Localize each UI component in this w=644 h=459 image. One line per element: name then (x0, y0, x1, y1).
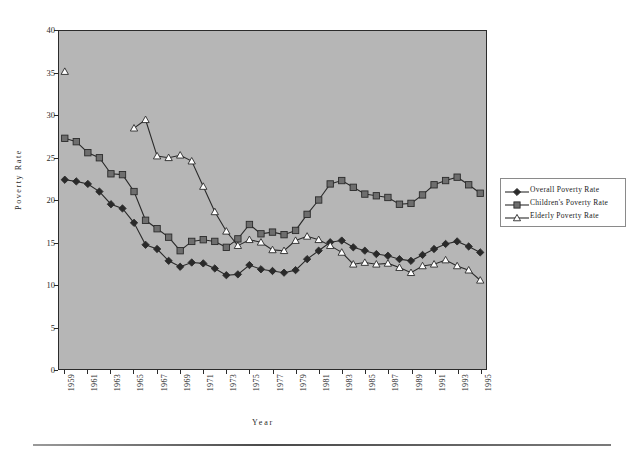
x-tick-mark (157, 370, 158, 374)
legend-label: Children's Poverty Rate (530, 198, 608, 207)
y-axis-title: Poverty Rate (14, 149, 23, 210)
data-point-marker (85, 149, 91, 155)
data-point-marker (407, 257, 414, 264)
x-tick-label: 1967 (160, 374, 169, 391)
data-point-marker (96, 155, 102, 161)
y-tick-label: 10 (33, 280, 55, 290)
x-tick-label: 1989 (415, 374, 424, 391)
x-tick-label: 1981 (322, 374, 331, 391)
data-point-marker (154, 226, 160, 232)
data-point-marker (142, 217, 148, 223)
data-point-marker (280, 269, 287, 276)
data-point-marker (327, 181, 333, 187)
x-tick-label: 1959 (67, 374, 76, 391)
data-point-marker (373, 250, 380, 257)
x-tick-label: 1969 (183, 374, 192, 391)
data-point-marker (339, 177, 345, 183)
data-point-marker (258, 231, 264, 237)
data-point-marker (419, 251, 426, 258)
data-point-marker (189, 238, 195, 244)
legend-item-1[interactable]: Overall Poverty Rate (504, 183, 621, 196)
x-tick-label: 1963 (113, 374, 122, 391)
data-point-marker (269, 229, 275, 235)
x-tick-label: 1991 (438, 374, 447, 391)
data-point-marker (338, 237, 345, 244)
data-point-marker (466, 182, 472, 188)
x-tick-mark (64, 370, 65, 374)
data-point-marker (453, 262, 460, 269)
x-tick-label: 1971 (206, 374, 215, 391)
x-tick-label: 1973 (229, 374, 238, 391)
y-tick-label: 15 (33, 238, 55, 248)
x-tick-mark (435, 370, 436, 374)
data-point-marker (200, 260, 207, 267)
legend-marker-square-icon (504, 197, 530, 209)
data-point-marker (142, 241, 149, 248)
data-point-marker (223, 272, 230, 279)
data-point-marker (396, 255, 403, 262)
x-tick-mark (226, 370, 227, 374)
data-point-marker (142, 116, 149, 123)
data-point-marker (200, 237, 206, 243)
data-point-marker (338, 249, 345, 256)
data-point-marker (477, 249, 484, 256)
data-point-marker (223, 228, 230, 235)
data-point-marker (442, 256, 449, 263)
data-point-marker (73, 178, 80, 185)
x-tick-mark (388, 370, 389, 374)
data-point-marker (361, 247, 368, 254)
data-point-marker (384, 252, 391, 259)
legend-label: Overall Poverty Rate (530, 185, 599, 194)
y-tick-label: 25 (33, 153, 55, 163)
x-tick-label: 1975 (252, 374, 261, 391)
data-point-marker (119, 171, 125, 177)
plot-area (58, 30, 487, 370)
x-tick-label: 1977 (276, 374, 285, 391)
data-point-marker (408, 200, 414, 206)
data-series-layer (59, 31, 486, 369)
data-point-marker (246, 221, 252, 227)
data-point-marker (246, 236, 253, 243)
data-point-marker (130, 125, 137, 132)
x-axis-title: Year (252, 418, 274, 427)
data-point-marker (396, 201, 402, 207)
data-point-marker (153, 152, 160, 159)
data-point-marker (73, 139, 79, 145)
x-tick-label: 1983 (345, 374, 354, 391)
data-point-marker (212, 238, 218, 244)
x-tick-mark (458, 370, 459, 374)
data-point-marker (514, 201, 520, 207)
x-tick-label: 1965 (136, 374, 145, 391)
data-point-marker (177, 152, 184, 159)
data-point-marker (188, 157, 195, 164)
data-point-marker (453, 238, 460, 245)
x-tick-label: 1961 (90, 374, 99, 391)
data-point-marker (211, 265, 218, 272)
data-point-marker (211, 208, 218, 215)
data-point-marker (62, 135, 68, 141)
data-point-marker (281, 231, 287, 237)
data-point-marker (131, 188, 137, 194)
data-point-marker (385, 194, 391, 200)
data-point-marker (61, 176, 68, 183)
chart-legend: Overall Poverty RateChildren's Poverty R… (500, 178, 626, 227)
data-point-marker (454, 174, 460, 180)
legend-marker-triangle-icon (504, 210, 530, 222)
x-tick-mark (110, 370, 111, 374)
data-point-marker (407, 269, 414, 276)
data-point-marker (431, 182, 437, 188)
x-tick-mark (87, 370, 88, 374)
x-tick-mark (481, 370, 482, 374)
data-point-marker (430, 245, 437, 252)
y-tick-label: 40 (33, 25, 55, 35)
legend-item-2[interactable]: Children's Poverty Rate (504, 196, 621, 209)
data-point-marker (350, 184, 356, 190)
data-point-marker (304, 211, 310, 217)
data-point-marker (269, 267, 276, 274)
x-tick-label: 1985 (368, 374, 377, 391)
footer-divider (33, 444, 611, 446)
x-tick-label: 1979 (299, 374, 308, 391)
x-tick-mark (133, 370, 134, 374)
data-point-marker (419, 192, 425, 198)
legend-item-3[interactable]: Elderly Poverty Rate (504, 209, 621, 222)
